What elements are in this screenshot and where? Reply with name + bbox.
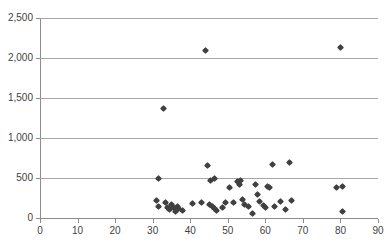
x-axis-tick-label: 60 — [260, 226, 271, 236]
scatter-chart: 05001,0001,5002,0002,500 010203040506070… — [0, 0, 392, 252]
data-point — [230, 198, 237, 205]
gridline-y-1000 — [40, 138, 378, 139]
data-point — [254, 191, 261, 198]
y-tick-mark — [36, 178, 40, 179]
data-point — [155, 174, 162, 181]
plot-area — [40, 18, 378, 218]
x-tick-mark — [303, 219, 304, 223]
x-axis-tick-label: 0 — [37, 226, 43, 236]
x-tick-mark — [340, 219, 341, 223]
x-tick-mark — [190, 219, 191, 223]
data-point — [282, 206, 289, 213]
data-point — [277, 198, 284, 205]
data-point — [252, 181, 259, 188]
data-point — [288, 196, 295, 203]
x-tick-mark — [115, 219, 116, 223]
gridline-y-0 — [40, 218, 378, 219]
x-tick-mark — [153, 219, 154, 223]
data-point — [222, 198, 229, 205]
x-axis-tick-label: 90 — [372, 226, 383, 236]
y-tick-mark — [36, 138, 40, 139]
x-axis-tick-label: 80 — [335, 226, 346, 236]
data-point — [179, 206, 186, 213]
y-tick-mark — [36, 18, 40, 19]
x-tick-mark — [378, 219, 379, 223]
y-axis-labels: 05001,0001,5002,0002,500 — [0, 0, 33, 252]
data-point — [339, 183, 346, 190]
data-point — [202, 46, 209, 53]
x-axis-tick-label: 10 — [72, 226, 83, 236]
y-tick-mark — [36, 98, 40, 99]
y-axis-tick-label: 1,000 — [8, 133, 33, 143]
y-axis-tick-label: 1,500 — [8, 93, 33, 103]
data-point — [286, 158, 293, 165]
y-axis-tick-label: 2,500 — [8, 13, 33, 23]
x-axis-tick-label: 70 — [297, 226, 308, 236]
x-tick-mark — [228, 219, 229, 223]
x-tick-mark — [78, 219, 79, 223]
data-point — [189, 200, 196, 207]
data-point — [337, 44, 344, 51]
x-tick-mark — [40, 219, 41, 223]
data-point — [262, 204, 269, 211]
x-axis-tick-label: 40 — [185, 226, 196, 236]
x-axis-tick-label: 50 — [222, 226, 233, 236]
y-axis-tick-label: 500 — [16, 173, 33, 183]
x-axis-tick-label: 20 — [110, 226, 121, 236]
gridline-y-2000 — [40, 58, 378, 59]
x-axis-tick-label: 30 — [147, 226, 158, 236]
data-point — [269, 161, 276, 168]
data-point — [339, 208, 346, 215]
data-point — [249, 210, 256, 217]
gridline-y-2500 — [40, 18, 378, 19]
data-point — [226, 184, 233, 191]
y-tick-mark — [36, 58, 40, 59]
data-point — [271, 202, 278, 209]
y-axis-tick-label: 2,000 — [8, 53, 33, 63]
data-point — [160, 105, 167, 112]
gridline-y-1500 — [40, 98, 378, 99]
data-point — [204, 162, 211, 169]
x-tick-mark — [265, 219, 266, 223]
data-point — [198, 198, 205, 205]
y-axis-tick-label: 0 — [27, 213, 33, 223]
